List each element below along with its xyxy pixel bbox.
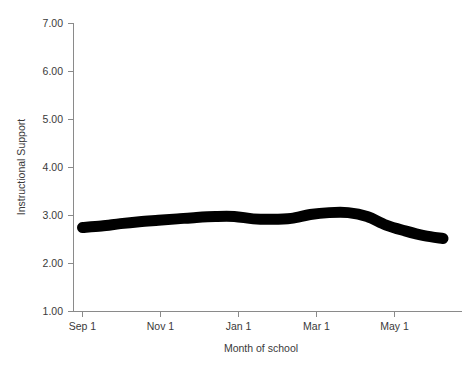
y-tick-label-7: 7.00 (43, 17, 64, 29)
x-tick-label-sep: Sep 1 (69, 320, 97, 332)
y-tick-label-1: 1.00 (43, 305, 64, 317)
x-tick-label-nov: Nov 1 (147, 320, 175, 332)
data-line-instructional-support (83, 212, 444, 238)
x-tick-label-may: May 1 (380, 320, 409, 332)
x-tick-label-mar: Mar 1 (303, 320, 330, 332)
y-axis-tick-labels: 7.00 6.00 5.00 4.00 3.00 2.00 1.00 (43, 17, 64, 317)
x-axis-ticks (83, 312, 395, 318)
y-tick-label-2: 2.00 (43, 257, 64, 269)
y-tick-label-4: 4.00 (43, 161, 64, 173)
y-axis-ticks (68, 24, 74, 312)
x-axis-title: Month of school (224, 342, 298, 354)
y-tick-label-3: 3.00 (43, 209, 64, 221)
chart-container: 7.00 6.00 5.00 4.00 3.00 2.00 1.00 Sep 1… (0, 0, 475, 365)
y-axis-title: Instructional Support (15, 119, 27, 215)
y-tick-label-5: 5.00 (43, 113, 64, 125)
x-tick-label-jan: Jan 1 (226, 320, 252, 332)
x-axis-tick-labels: Sep 1 Nov 1 Jan 1 Mar 1 May 1 (69, 320, 409, 332)
y-tick-label-6: 6.00 (43, 65, 64, 77)
line-chart: 7.00 6.00 5.00 4.00 3.00 2.00 1.00 Sep 1… (0, 0, 475, 365)
